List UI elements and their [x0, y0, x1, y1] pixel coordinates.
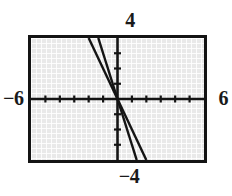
graph-figure: 4 −4 −6 6: [0, 0, 232, 196]
y-axis-min-label: −4: [0, 166, 232, 186]
plot-area: [31, 38, 204, 160]
y-axis-max-label: 4: [0, 10, 232, 30]
x-axis-min-label: −6: [3, 88, 23, 108]
calculator-screen: [28, 35, 207, 163]
x-axis-max-label: 6: [219, 88, 229, 108]
